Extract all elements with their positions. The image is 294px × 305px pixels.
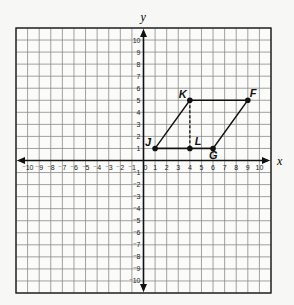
x-tick-label: 8 [234,164,238,171]
y-tick-label: 4 [137,109,141,116]
x-tick-label: 7 [223,164,227,171]
y-tick-label: 7 [137,73,141,80]
coordinate-grid-svg: xy⁻10⁻9⁻8⁻7⁻6⁻5⁻4⁻3⁻2⁻1012345678910⁻10⁻9… [0,0,294,305]
y-tick-label: 5 [137,97,141,104]
x-tick-label: 2 [165,164,169,171]
point-label-j: J [145,136,152,148]
y-tick-label: ⁻4 [133,205,141,212]
y-tick-label: ⁻9 [133,265,141,272]
x-tick-label: ⁻2 [116,164,124,171]
y-tick-label: 10 [133,37,141,44]
y-tick-label: ⁻1 [133,169,141,176]
x-tick-label: ⁻3 [105,164,113,171]
x-tick-label: 0 [144,164,148,171]
x-tick-label: 3 [176,164,180,171]
point-l [187,146,193,152]
point-j [152,146,158,152]
y-tick-label: 3 [137,121,141,128]
y-tick-label: 8 [137,61,141,68]
y-tick-label: ⁻7 [133,241,141,248]
y-tick-label: ⁻10 [129,277,141,284]
y-tick-label: 2 [137,133,141,140]
x-tick-label: ⁻5 [82,164,90,171]
x-tick-label: 5 [200,164,204,171]
x-axis-label: x [276,154,283,168]
x-tick-label: 4 [188,164,192,171]
point-label-f: F [250,87,257,99]
y-tick-label: 1 [137,145,141,152]
x-tick-label: ⁻10 [22,164,34,171]
x-tick-label: ⁻6 [70,164,78,171]
y-axis-label: y [140,10,147,24]
x-tick-label: ⁻7 [58,164,66,171]
x-tick-label: ⁻4 [93,164,101,171]
point-label-g: G [209,149,218,161]
x-tick-label: 9 [246,164,250,171]
x-tick-label: 1 [153,164,157,171]
x-tick-label: 10 [256,164,264,171]
point-k [187,97,193,103]
y-tick-label: ⁻8 [133,253,141,260]
x-tick-label: ⁻9 [35,164,43,171]
coordinate-plane: xy⁻10⁻9⁻8⁻7⁻6⁻5⁻4⁻3⁻2⁻1012345678910⁻10⁻9… [0,0,294,305]
y-tick-label: ⁻3 [133,193,141,200]
y-tick-label: ⁻6 [133,229,141,236]
y-tick-label: ⁻2 [133,181,141,188]
point-label-k: K [179,88,188,100]
point-label-l: L [195,135,202,147]
x-tick-label: ⁻8 [47,164,55,171]
y-tick-label: 6 [137,85,141,92]
x-tick-label: 6 [211,164,215,171]
y-tick-label: ⁻5 [133,217,141,224]
y-tick-label: 9 [137,49,141,56]
